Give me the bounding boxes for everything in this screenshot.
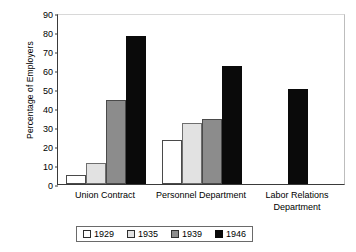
bar-group bbox=[250, 15, 346, 184]
bar-group bbox=[58, 15, 154, 184]
y-axis-title: Percentage of Employers bbox=[25, 0, 35, 180]
x-axis-category-label-line: Personnel Department bbox=[153, 190, 249, 202]
x-axis-category-label-line: Department bbox=[249, 202, 345, 214]
legend-label: 1939 bbox=[182, 229, 202, 239]
chart-legend: 1929193519391946 bbox=[76, 226, 253, 242]
y-axis-tick-mark bbox=[55, 186, 58, 187]
legend-swatch-icon bbox=[171, 230, 179, 238]
bar bbox=[106, 100, 126, 184]
bar bbox=[202, 119, 222, 184]
x-axis-category-label-line: Union Contract bbox=[57, 190, 153, 202]
legend-label: 1935 bbox=[138, 229, 158, 239]
bar bbox=[162, 140, 182, 184]
bar bbox=[222, 66, 242, 184]
plot-area: 9080706050403020100 bbox=[57, 14, 345, 185]
legend-item: 1929 bbox=[83, 229, 114, 239]
bar-chart: Percentage of Employers 9080706050403020… bbox=[0, 0, 356, 252]
legend-swatch-icon bbox=[83, 230, 91, 238]
legend-label: 1929 bbox=[94, 229, 114, 239]
bar-group bbox=[154, 15, 250, 184]
bar bbox=[86, 163, 106, 184]
legend-item: 1935 bbox=[127, 229, 158, 239]
x-axis-category-label-line: Labor Relations bbox=[249, 190, 345, 202]
bar bbox=[182, 123, 202, 184]
legend-item: 1946 bbox=[215, 229, 246, 239]
legend-label: 1946 bbox=[226, 229, 246, 239]
x-axis-category-label: Union Contract bbox=[57, 190, 153, 202]
legend-item: 1939 bbox=[171, 229, 202, 239]
x-axis-category-label: Labor RelationsDepartment bbox=[249, 190, 345, 213]
bar bbox=[288, 89, 308, 184]
legend-swatch-icon bbox=[215, 230, 223, 238]
x-axis-category-label: Personnel Department bbox=[153, 190, 249, 202]
bar bbox=[126, 36, 146, 184]
bar bbox=[66, 175, 86, 185]
legend-swatch-icon bbox=[127, 230, 135, 238]
